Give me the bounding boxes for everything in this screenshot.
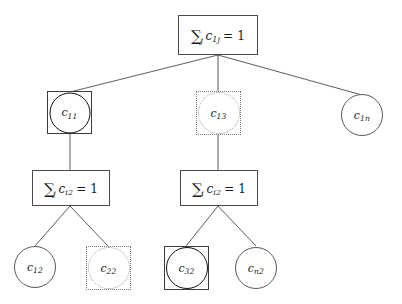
c1n-label: c1n xyxy=(354,110,370,121)
equals-one: = 1 xyxy=(223,29,245,43)
variable-subscript: 1j xyxy=(212,35,220,44)
edge-root-c1n xyxy=(218,55,362,95)
node-cn2: cn2 xyxy=(235,247,277,289)
node-c13: c13 xyxy=(196,91,241,135)
root-equation-text: ∑jc1j= 1 xyxy=(191,28,245,43)
variable-subscript: i2 xyxy=(65,188,73,197)
c22-label: c22 xyxy=(100,263,116,274)
box-mid-equation-text: ∑ici2= 1 xyxy=(192,181,246,196)
c12-label: c12 xyxy=(27,262,43,273)
node-c22: c22 xyxy=(86,246,131,290)
node-box-mid-equation: ∑ici2= 1 xyxy=(180,170,258,206)
cn2-subscript: n2 xyxy=(254,267,264,276)
tree-diagram: ∑jc1j= 1 c11 c13 c1n ∑jci2= 1 ∑ici2= 1 xyxy=(0,0,402,304)
edge-box-mid-cn2 xyxy=(218,206,256,246)
c32-subscript: 32 xyxy=(185,267,195,276)
node-c12: c12 xyxy=(14,246,56,288)
c32-label: c32 xyxy=(178,263,194,274)
sigma-index: j xyxy=(53,189,56,198)
node-c11: c11 xyxy=(47,91,92,134)
cn2-label: cn2 xyxy=(248,263,264,274)
c11-subscript: 11 xyxy=(68,112,78,121)
c13-label: c13 xyxy=(210,108,226,119)
node-c32: c32 xyxy=(164,246,209,290)
c13-subscript: 13 xyxy=(217,112,227,121)
equals-one: = 1 xyxy=(76,182,98,196)
c11-variable: c xyxy=(61,106,67,119)
edge-box-left-c22 xyxy=(70,206,108,246)
sigma-index: j xyxy=(200,36,203,45)
variable-subscript: i2 xyxy=(213,188,221,197)
c32-variable: c xyxy=(178,262,184,275)
edge-box-mid-c32 xyxy=(186,206,218,246)
c13-variable: c xyxy=(210,107,216,120)
c1n-subscript: 1n xyxy=(360,114,370,123)
edge-box-left-c12 xyxy=(35,206,70,246)
c12-subscript: 12 xyxy=(33,266,43,275)
node-c1n: c1n xyxy=(341,94,383,136)
box-left-equation-text: ∑jci2= 1 xyxy=(44,181,98,196)
c22-subscript: 22 xyxy=(107,267,117,276)
equals-one: = 1 xyxy=(224,182,246,196)
c11-label: c11 xyxy=(61,107,77,118)
c22-variable: c xyxy=(100,262,106,275)
node-box-left-equation: ∑jci2= 1 xyxy=(32,170,110,206)
node-root-equation-box: ∑jc1j= 1 xyxy=(178,15,258,55)
sigma-index: i xyxy=(201,189,204,198)
edge-root-c11 xyxy=(70,55,218,92)
